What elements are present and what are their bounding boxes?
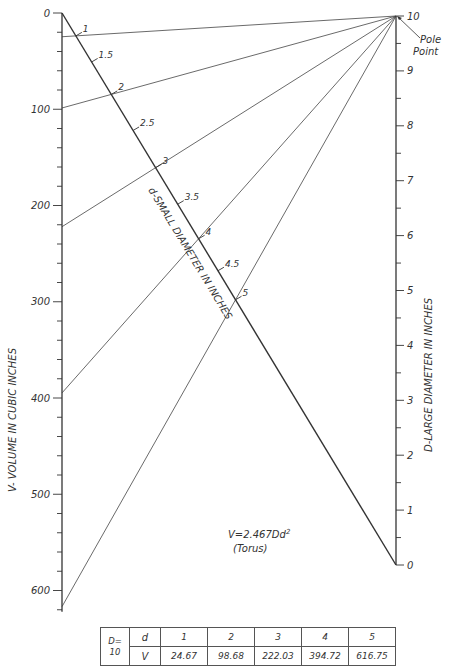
d-small-diagonal-axis: 11.522.533.544.55 — [62, 13, 396, 565]
v-value-cell: 394.72 — [302, 647, 349, 666]
svg-text:500: 500 — [31, 489, 50, 500]
row-label-d: d — [130, 628, 161, 647]
svg-text:3.5: 3.5 — [185, 192, 200, 202]
v-value-cell: 616.75 — [349, 647, 396, 666]
svg-text:3: 3 — [163, 156, 169, 166]
svg-text:4.5: 4.5 — [225, 259, 240, 269]
d-value-cell: 4 — [302, 628, 349, 647]
svg-text:2: 2 — [407, 450, 413, 461]
svg-text:0: 0 — [407, 560, 413, 571]
svg-text:400: 400 — [31, 393, 50, 404]
svg-text:0: 0 — [44, 8, 50, 19]
svg-text:2.5: 2.5 — [140, 118, 155, 128]
d-large-axis: 012345678910 — [396, 11, 420, 571]
d-small-axis-title: d-SMALL DIAMETER IN INCHES — [146, 185, 235, 322]
pole-point-label-1: Pole — [420, 34, 441, 45]
svg-text:2: 2 — [118, 82, 124, 92]
d-header-value: 10 — [110, 647, 121, 657]
svg-text:1: 1 — [407, 505, 413, 516]
d-large-axis-title: D-LARGE DIAMETER IN INCHES — [423, 297, 434, 452]
formula-subtitle: (Torus) — [233, 543, 267, 554]
v-value-cell: 24.67 — [161, 647, 208, 666]
example-values-table: D= 10 d 1 2 3 4 5 V 24.67 98.68 222.03 3… — [100, 627, 396, 666]
table-row: V 24.67 98.68 222.03 394.72 616.75 — [101, 647, 396, 666]
pole-point-arrow-icon — [397, 16, 402, 20]
svg-text:4: 4 — [407, 340, 413, 351]
d-value-cell: 5 — [349, 628, 396, 647]
svg-text:1: 1 — [83, 24, 89, 34]
v-value-cell: 222.03 — [255, 647, 302, 666]
formula-label: V=2.467Dd2 — [228, 528, 291, 540]
svg-text:7: 7 — [407, 175, 414, 186]
svg-text:10: 10 — [407, 11, 420, 22]
svg-text:200: 200 — [31, 200, 50, 211]
row-label-v: V — [130, 647, 161, 666]
svg-text:3: 3 — [407, 395, 413, 406]
svg-text:4: 4 — [206, 227, 212, 237]
nomogram-chart: 0100200300400500600 012345678910 11.522.… — [0, 0, 450, 670]
table-row: D= 10 d 1 2 3 4 5 — [101, 628, 396, 647]
v-volume-axis: 0100200300400500600 — [31, 8, 62, 612]
v-value-cell: 98.68 — [208, 647, 255, 666]
d-value-cell: 2 — [208, 628, 255, 647]
svg-text:100: 100 — [31, 104, 50, 115]
d-header-label: D= — [108, 636, 122, 646]
svg-text:5: 5 — [407, 285, 413, 296]
d-header-cell: D= 10 — [101, 628, 130, 666]
d-value-cell: 1 — [161, 628, 208, 647]
svg-text:300: 300 — [31, 296, 50, 307]
svg-text:8: 8 — [407, 120, 413, 131]
d-value-cell: 3 — [255, 628, 302, 647]
svg-text:9: 9 — [407, 65, 413, 76]
svg-text:600: 600 — [31, 585, 50, 596]
v-axis-title: V- VOLUME IN CUBIC INCHES — [7, 347, 18, 492]
pole-point-label-2: Point — [413, 46, 439, 57]
svg-text:6: 6 — [407, 230, 413, 241]
svg-text:1.5: 1.5 — [99, 50, 114, 60]
svg-text:5: 5 — [243, 288, 249, 298]
